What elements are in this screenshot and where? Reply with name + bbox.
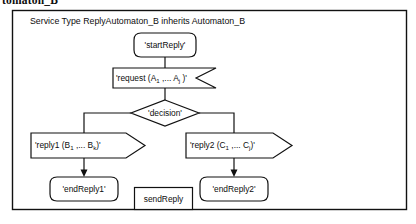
node-end-reply1[interactable]: 'endReply1' (50, 177, 118, 201)
node-end-reply1-label: 'endReply1' (62, 184, 106, 194)
node-send-reply-label: sendReply (144, 194, 184, 204)
node-end-reply2[interactable]: 'endReply2' (200, 177, 268, 201)
node-request-label: 'request (A1 ,... Aj )' (116, 73, 187, 84)
node-end-reply2-label: 'endReply2' (212, 184, 256, 194)
node-send-reply[interactable]: sendReply (135, 188, 193, 210)
frame-title: Service Type ReplyAutomaton_B inherits A… (30, 16, 245, 26)
node-reply2-label: 'reply2 (C1 ,... Cj)' (190, 140, 255, 151)
diagram-canvas: tomaton_B Service Type ReplyAutomaton_B … (0, 0, 416, 224)
node-start-reply-label: 'startReply' (145, 40, 186, 50)
node-reply2[interactable]: 'reply2 (C1 ,... Cj)' (186, 133, 292, 158)
node-start-reply[interactable]: 'startReply' (134, 33, 196, 57)
cut-off-page-heading: tomaton_B (2, 0, 58, 6)
node-decision-label: 'decision' (148, 108, 182, 118)
service-type-flowchart: Service Type ReplyAutomaton_B inherits A… (0, 0, 416, 224)
node-reply1-label: 'reply1 (B1 ,... Bk)' (35, 140, 101, 151)
node-reply1[interactable]: 'reply1 (B1 ,... Bk)' (31, 133, 145, 158)
